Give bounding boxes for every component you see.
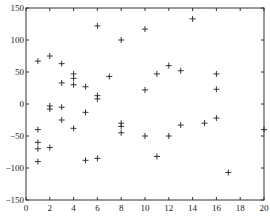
y-tick-label: 50 — [15, 67, 25, 77]
y-tick-label: 150 — [11, 3, 25, 13]
plus-marker — [83, 109, 89, 115]
plus-marker — [118, 37, 124, 43]
plus-marker — [166, 63, 172, 69]
plus-marker — [213, 71, 219, 77]
x-axis: 02468101214161820 — [24, 8, 269, 213]
plus-marker — [59, 104, 65, 110]
x-tick-label: 8 — [119, 203, 124, 213]
plus-marker — [178, 68, 184, 74]
plus-marker — [142, 26, 148, 32]
plus-marker — [35, 139, 41, 145]
plus-marker — [213, 86, 219, 92]
data-markers — [35, 16, 267, 176]
x-tick-label: 16 — [212, 203, 222, 213]
plus-marker — [261, 127, 267, 133]
plus-marker — [47, 53, 53, 59]
x-tick-label: 18 — [236, 203, 246, 213]
plus-marker — [35, 146, 41, 152]
plus-marker — [118, 123, 124, 129]
y-tick-label: 0 — [20, 99, 25, 109]
plus-marker — [71, 125, 77, 131]
plus-marker — [94, 155, 100, 161]
plus-marker — [83, 84, 89, 90]
plus-marker — [59, 117, 65, 123]
x-tick-label: 6 — [95, 203, 100, 213]
x-tick-label: 4 — [71, 203, 76, 213]
plus-marker — [59, 61, 65, 67]
y-tick-label: −150 — [5, 195, 24, 205]
plus-marker — [47, 145, 53, 151]
y-axis: −150−100−50050100150 — [5, 3, 264, 205]
plus-marker — [213, 115, 219, 121]
plus-marker — [178, 122, 184, 128]
plus-marker — [71, 82, 77, 88]
y-tick-label: 100 — [11, 35, 25, 45]
plus-marker — [94, 96, 100, 102]
y-tick-label: −50 — [10, 131, 25, 141]
plus-marker — [118, 130, 124, 136]
x-tick-label: 20 — [260, 203, 270, 213]
plus-marker — [106, 73, 112, 79]
plus-marker — [166, 133, 172, 139]
plus-marker — [59, 80, 65, 86]
x-tick-label: 14 — [188, 203, 198, 213]
plus-marker — [35, 58, 41, 64]
plus-marker — [202, 120, 208, 126]
plus-marker — [142, 87, 148, 93]
plus-marker — [35, 127, 41, 133]
plus-marker — [71, 75, 77, 81]
plus-marker — [142, 133, 148, 139]
plus-marker — [190, 16, 196, 22]
y-tick-label: −100 — [5, 163, 24, 173]
x-tick-label: 2 — [48, 203, 53, 213]
x-tick-label: 0 — [24, 203, 29, 213]
plus-marker — [154, 153, 160, 159]
x-tick-label: 10 — [141, 203, 151, 213]
x-tick-label: 12 — [164, 203, 173, 213]
plus-marker — [225, 169, 231, 175]
plus-marker — [83, 157, 89, 163]
plus-marker — [35, 159, 41, 165]
scatter-chart: 02468101214161820 −150−100−50050100150 — [0, 0, 269, 218]
plus-marker — [154, 71, 160, 77]
plus-marker — [94, 23, 100, 29]
plus-marker — [47, 106, 53, 112]
